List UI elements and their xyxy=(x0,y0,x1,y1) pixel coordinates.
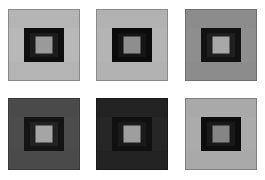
panel-cell-bottom-center xyxy=(88,90,176,180)
center-test-patch xyxy=(212,36,229,53)
top-surround-band xyxy=(8,98,80,117)
contrast-figure-c xyxy=(185,9,257,81)
bottom-surround-band xyxy=(96,151,168,170)
contrast-figure-d xyxy=(8,98,80,170)
contrast-figure-e xyxy=(96,98,168,170)
stimulus-grid xyxy=(0,0,265,179)
panel-cell-top-center xyxy=(88,0,176,90)
contrast-figure-f xyxy=(185,98,257,170)
center-test-patch xyxy=(36,126,53,143)
top-surround-band xyxy=(185,98,257,117)
top-surround-band xyxy=(185,9,257,28)
contrast-figure-b xyxy=(96,9,168,81)
bottom-surround-band xyxy=(185,62,257,81)
panel-cell-bottom-left xyxy=(0,90,88,180)
top-surround-band xyxy=(96,9,168,28)
bottom-surround-band xyxy=(185,151,257,170)
bottom-surround-band xyxy=(8,151,80,170)
top-surround-band xyxy=(96,98,168,117)
panel-cell-bottom-right xyxy=(177,90,265,180)
contrast-figure-a xyxy=(8,9,80,81)
center-test-patch xyxy=(124,36,141,53)
top-surround-band xyxy=(8,9,80,28)
bottom-surround-band xyxy=(8,62,80,81)
center-test-patch xyxy=(124,126,141,143)
bottom-surround-band xyxy=(96,62,168,81)
panel-cell-top-left xyxy=(0,0,88,90)
center-test-patch xyxy=(212,126,229,143)
center-test-patch xyxy=(36,36,53,53)
panel-cell-top-right xyxy=(177,0,265,90)
